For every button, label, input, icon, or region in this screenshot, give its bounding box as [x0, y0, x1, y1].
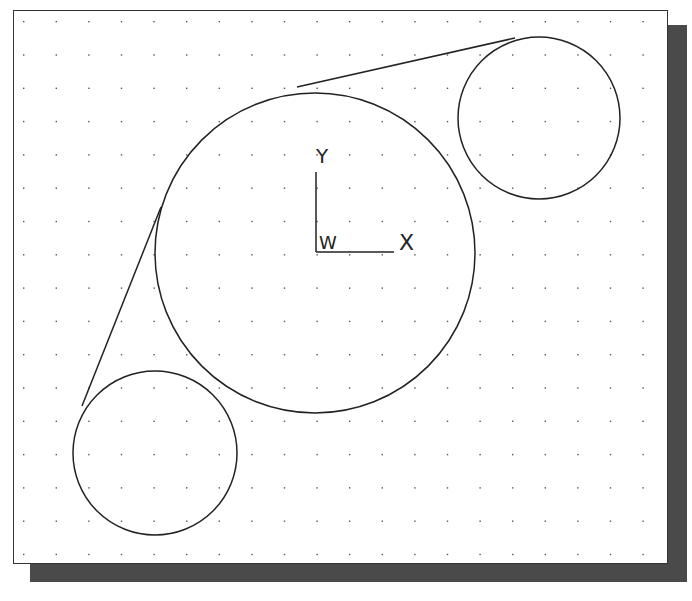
- top-tangent-line[interactable]: [297, 38, 515, 87]
- left-tangent-line[interactable]: [82, 207, 161, 406]
- drawing-canvas[interactable]: Y X W: [0, 0, 692, 601]
- drawing-geometry: [73, 37, 620, 535]
- bottom-left-circle[interactable]: [73, 371, 237, 535]
- large-circle[interactable]: [155, 93, 475, 413]
- ucs-w-label: W: [319, 232, 337, 253]
- ucs-icon: Y X W: [315, 144, 414, 255]
- top-right-circle[interactable]: [458, 37, 620, 199]
- grid-dots: [23, 21, 644, 555]
- ucs-x-label: X: [399, 230, 414, 255]
- ucs-y-label: Y: [315, 144, 329, 168]
